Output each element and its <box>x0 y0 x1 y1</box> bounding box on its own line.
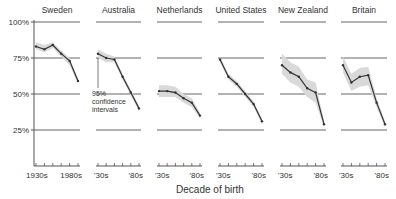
x-tick-label-end: '80s <box>252 171 266 180</box>
y-tick-label: 25% <box>13 126 29 135</box>
x-axis-title: Decade of birth <box>176 184 244 195</box>
data-point <box>306 87 308 89</box>
data-point <box>314 91 316 93</box>
ci-annotation: 95%confidenceintervals <box>92 58 126 113</box>
data-point <box>298 76 300 78</box>
x-tick-label-end: '80s <box>190 171 204 180</box>
data-point <box>77 80 79 82</box>
data-point <box>367 74 369 76</box>
small-multiples-chart: 100%75%50%25% Sweden1930s1980sAustralia'… <box>0 0 396 199</box>
x-tick-label-end: '80s <box>314 171 328 180</box>
confidence-band <box>282 54 324 127</box>
data-point <box>342 64 344 66</box>
data-point <box>323 123 325 125</box>
data-point <box>252 103 254 105</box>
y-tick-label: 100% <box>9 18 29 27</box>
data-point <box>68 60 70 62</box>
data-point <box>35 45 37 47</box>
panel-new-zealand: New Zealand'30s'80s <box>278 5 328 180</box>
data-point <box>384 123 386 125</box>
panel-title: United States <box>215 5 266 15</box>
data-point <box>105 57 107 59</box>
data-point <box>60 52 62 54</box>
data-point <box>182 97 184 99</box>
data-point <box>227 76 229 78</box>
confidence-band <box>220 57 262 125</box>
data-point <box>121 76 123 78</box>
x-tick-label-end: 1980s <box>60 171 82 180</box>
data-point <box>359 76 361 78</box>
x-tick-label-start: '30s <box>155 171 169 180</box>
data-point <box>289 71 291 73</box>
x-tick-label-end: '80s <box>129 171 143 180</box>
panel-title: New Zealand <box>278 5 328 15</box>
panel-title: Netherlands <box>157 5 203 15</box>
data-point <box>236 83 238 85</box>
data-point <box>174 91 176 93</box>
panel-netherlands: Netherlands'30s'80s <box>155 5 204 180</box>
x-tick-label-start: '30s <box>216 171 230 180</box>
panel-britain: Britain'30s'80s <box>339 5 389 180</box>
data-point <box>113 58 115 60</box>
x-tick-label-start: '30s <box>94 171 108 180</box>
panel-title: Sweden <box>42 5 73 15</box>
confidence-band <box>343 57 385 128</box>
data-point <box>52 44 54 46</box>
x-tick-label-start: '30s <box>339 171 353 180</box>
data-point <box>43 48 45 50</box>
y-axis: 100%75%50%25% <box>9 18 34 166</box>
data-point <box>166 90 168 92</box>
data-point <box>199 114 201 116</box>
data-point <box>158 90 160 92</box>
data-point <box>375 101 377 103</box>
x-tick-label-end: '80s <box>375 171 389 180</box>
chart-panels: Sweden1930s1980sAustralia'30s'80sNetherl… <box>26 5 389 180</box>
x-tick-label-start: 1930s <box>26 171 48 180</box>
data-point <box>130 91 132 93</box>
panel-united-states: United States'30s'80s <box>215 5 266 180</box>
data-point <box>219 58 221 60</box>
panel-title: Australia <box>102 5 135 15</box>
data-point <box>97 52 99 54</box>
data-point <box>191 101 193 103</box>
panel-title: Britain <box>352 5 376 15</box>
annotation-text: intervals <box>92 106 119 113</box>
confidence-band <box>159 85 200 118</box>
annotation-text: 95% <box>92 90 106 97</box>
x-tick-label-start: '30s <box>278 171 292 180</box>
data-point <box>350 81 352 83</box>
data-point <box>244 93 246 95</box>
data-point <box>138 107 140 109</box>
y-tick-label: 75% <box>13 54 29 63</box>
data-point <box>261 120 263 122</box>
y-tick-label: 50% <box>13 90 29 99</box>
annotation-text: confidence <box>92 98 126 105</box>
data-point <box>281 64 283 66</box>
